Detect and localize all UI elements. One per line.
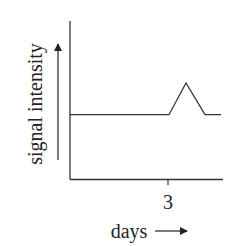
- signal-series-line: [70, 83, 221, 115]
- x-axis-label: days: [111, 220, 148, 243]
- line-chart: signal intensity 3 days: [0, 0, 232, 246]
- y-axis-label: signal intensity: [24, 43, 47, 165]
- x-tick-label-3: 3: [163, 191, 173, 213]
